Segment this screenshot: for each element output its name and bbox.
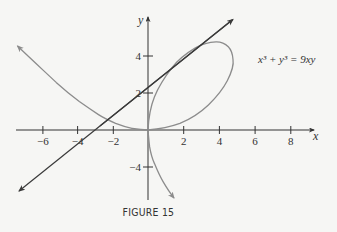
x-tick-label: −6 [37,135,49,147]
y-tick-label: −4 [129,161,141,173]
x-tick-label: 2 [181,135,187,147]
tangent-line-end [100,20,233,127]
x-tick-label: 8 [288,135,294,147]
x-tick-label: 6 [252,135,258,147]
equation-label: x³ + y³ = 9xy [257,53,316,65]
y-tick-label: 4 [136,50,142,62]
folium-loop [148,42,233,130]
x-tick-label: 4 [217,135,223,147]
folium-lower-arm [148,130,174,198]
folium-figure: −6 −4 −2 2 4 6 8 4 2 −4 x y x³ + y³ = 9x… [0,0,337,232]
x-tick-label: −2 [107,135,119,147]
x-axis-label: x [312,129,319,143]
y-axis-label: y [137,13,144,27]
figure-caption: FIGURE 15 [22,206,274,219]
folium-left-arm [18,46,149,130]
